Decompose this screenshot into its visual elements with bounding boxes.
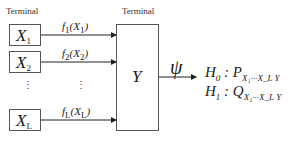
terminal-box-2: X2 (9, 51, 41, 73)
terminal-symbol: X2 (16, 53, 31, 73)
message-label-1: f1(X1) (62, 20, 88, 35)
center-symbol: Y (132, 67, 141, 87)
terminal-symbol: X1 (16, 26, 31, 46)
message-label-L: fL(XL) (62, 105, 90, 120)
decision-symbol: ψ (170, 56, 182, 79)
terminal-symbol: XL (16, 111, 32, 131)
terminal-box-L: XL (9, 109, 41, 131)
message-label-2: f2(X2) (62, 47, 88, 62)
ellipsis-terminals: ⋮ (23, 82, 33, 87)
ellipsis-messages: ⋮ (76, 82, 86, 87)
hypothesis-0: H0 : PX₁···X_L Y (205, 64, 280, 83)
terminal-box-1: X1 (9, 24, 41, 46)
center-terminal-box: Y (116, 24, 159, 131)
hypothesis-1: H1 : QX₁···X_L Y (205, 83, 281, 102)
